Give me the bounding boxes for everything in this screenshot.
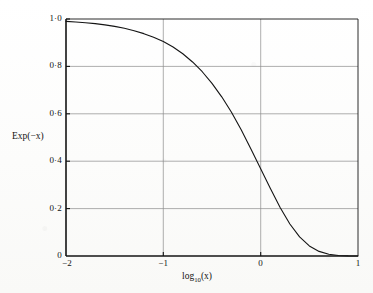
x-axis-title-argument: (x)	[201, 271, 212, 281]
ytick-label-0-2: 0·2	[40, 203, 62, 213]
ytick-label-1-0: 1·0	[40, 13, 62, 23]
figure-exp-decay-chart: 1·0 0·8 0·6 0·4 0·2 0 −2 −1 0 1 Exp(−x) …	[0, 0, 373, 293]
xtick-label-1: 1	[350, 258, 366, 268]
series-line-exp-minus-x	[66, 21, 358, 256]
xtick-label-0: 0	[253, 258, 269, 268]
x-axis-title-base: log	[182, 271, 194, 281]
x-axis-title: log10(x)	[182, 271, 212, 283]
ytick-label-0-6: 0·6	[40, 108, 62, 118]
plot-frame	[66, 19, 358, 256]
xtick-label-minus-1: −1	[155, 258, 171, 268]
xtick-label-minus-2: −2	[59, 258, 75, 268]
vertical-gridlines	[163, 19, 260, 256]
ytick-label-0-8: 0·8	[40, 60, 62, 70]
ytick-label-0-4: 0·4	[40, 155, 62, 165]
y-axis-title: Exp(−x)	[12, 131, 44, 141]
x-axis-title-subscript: 10	[194, 276, 201, 283]
horizontal-gridlines	[66, 66, 358, 208]
